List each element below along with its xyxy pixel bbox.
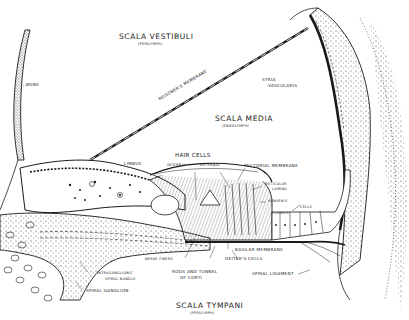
scala-vestibuli-sub: (PERILYMPH) — [138, 43, 163, 46]
intraganglionic-label-1: INTRAGANGLIONIC — [97, 272, 133, 275]
reticular-lamina-label-1: RETICULAR — [265, 183, 287, 186]
cochlea-diagram: SCALA VESTIBULI (PERILYMPH) BONE REISSNE… — [0, 0, 409, 320]
deiters-cells-label: DEITER'S CELLS — [225, 257, 262, 261]
rods-tunnel-label-1: RODS AND TUNNEL — [172, 270, 217, 274]
claudius-label: CLAUDIUS' — [272, 212, 290, 215]
hair-cells-external-label: EXTERNAL — [200, 164, 220, 167]
intraganglionic-label-2: SPIRAL BUNDLE — [105, 278, 136, 281]
scala-media-label: SCALA MEDIA — [215, 115, 273, 123]
scala-vestibuli-label: SCALA VESTIBULI — [119, 33, 193, 41]
scala-tympani-label: SCALA TYMPANI — [176, 302, 243, 310]
spiral-ligament-label: SPIRAL LIGAMENT — [252, 272, 294, 276]
stria-label-2: VASCULARIS — [268, 84, 297, 88]
hair-cells-label: HAIR CELLS — [175, 153, 211, 159]
scala-tympani-sub: (PERILYMPH) — [190, 312, 215, 315]
tectorial-membrane-label: TECTORIAL MEMBRANE — [244, 164, 298, 168]
scala-media-sub: (ENDOLYMPH) — [222, 125, 249, 128]
nerve-fibers-label: NERVE FIBERS — [145, 258, 173, 261]
cells-label: CELLS — [300, 206, 312, 209]
reticular-lamina-label-2: LAMINA — [272, 188, 287, 191]
rods-tunnel-label-2: OF CORTI — [180, 276, 202, 280]
reissners-membrane-label: REISSNER'S MEMBRANE — [158, 69, 208, 101]
hair-cells-internal-label: INTERNAL — [167, 164, 186, 167]
hensens-label: HENSEN'S — [268, 200, 288, 203]
limbus-label: LIMBUS — [124, 162, 142, 166]
basilar-membrane-label: BASILAR MEMBRANE — [235, 248, 283, 252]
stria-label-1: STRIA — [262, 78, 276, 82]
spiral-ganglion-label: SPIRAL GANGLION — [86, 289, 129, 293]
bone-label: BONE — [26, 83, 39, 87]
